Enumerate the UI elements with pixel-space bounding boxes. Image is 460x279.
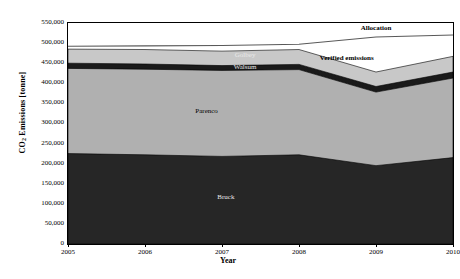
y-tick-label: 300,000 xyxy=(18,118,64,126)
x-tick-mark xyxy=(68,244,69,247)
x-tick-label: 2008 xyxy=(292,248,306,256)
golbey-annotation: Golbey xyxy=(235,51,256,59)
line-series-allocation xyxy=(68,35,453,46)
area-series-bruck xyxy=(68,154,453,244)
x-tick-mark xyxy=(222,244,223,247)
x-tick-mark xyxy=(299,244,300,247)
y-tick-label: 400,000 xyxy=(18,78,64,86)
allocation-annotation: Allocation xyxy=(361,24,392,32)
y-tick-label: 450,000 xyxy=(18,58,64,66)
x-tick-mark xyxy=(145,244,146,247)
x-tick-mark xyxy=(453,244,454,247)
y-tick-label: 550,000 xyxy=(18,18,64,26)
x-tick-label: 2005 xyxy=(61,248,75,256)
x-axis-title: Year xyxy=(0,256,456,265)
y-tick-label: 200,000 xyxy=(18,159,64,167)
y-tick-label: 0 xyxy=(18,239,64,247)
x-tick-label: 2009 xyxy=(369,248,383,256)
x-tick-mark xyxy=(376,244,377,247)
y-tick-label: 150,000 xyxy=(18,179,64,187)
y-tick-label: 350,000 xyxy=(18,98,64,106)
x-tick-label: 2006 xyxy=(138,248,152,256)
verified-emissions-annotation: Verified emissions xyxy=(320,54,374,62)
y-tick-label: 100,000 xyxy=(18,199,64,207)
y-tick-label: 250,000 xyxy=(18,139,64,147)
x-tick-label: 2010 xyxy=(446,248,460,256)
y-tick-label: 50,000 xyxy=(18,219,64,227)
parenco-annotation: Parenco xyxy=(195,107,218,115)
walsum-annotation: Walsum xyxy=(234,63,257,71)
plot-area xyxy=(67,22,454,245)
stacked-areas-group xyxy=(68,49,453,244)
bruck-annotation: Bruck xyxy=(217,193,234,201)
y-tick-label: 500,000 xyxy=(18,38,64,46)
y-axis-tick-labels: 050,000100,000150,000200,000250,000300,0… xyxy=(16,0,64,279)
plot-svg xyxy=(68,23,453,244)
allocation-line-group xyxy=(68,35,453,46)
x-tick-label: 2007 xyxy=(215,248,229,256)
